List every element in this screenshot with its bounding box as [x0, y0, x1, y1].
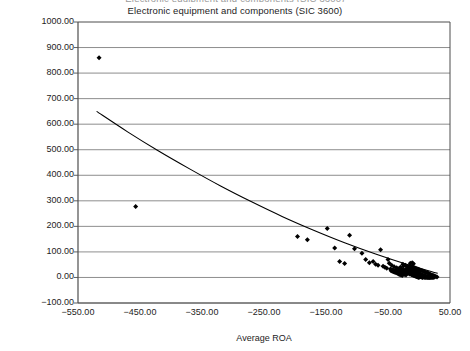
scatter-point-marker [347, 233, 352, 238]
trendline-curve [97, 111, 438, 273]
scatter-point-marker [97, 55, 102, 60]
scatter-point-marker [305, 237, 310, 242]
scatter-plot-canvas [0, 0, 470, 351]
scatter-point-marker [363, 257, 368, 262]
plot-frame [78, 22, 450, 303]
scatter-points [97, 55, 440, 280]
scatter-point-marker [367, 260, 372, 265]
scatter-point-marker [342, 261, 347, 266]
scatter-point-marker [332, 246, 337, 251]
chart-figure: Electronic equipment and components (SIC… [0, 0, 470, 351]
scatter-point-marker [133, 204, 138, 209]
scatter-point-marker [359, 251, 364, 256]
scatter-point-marker [295, 234, 300, 239]
scatter-point-marker [337, 259, 342, 264]
